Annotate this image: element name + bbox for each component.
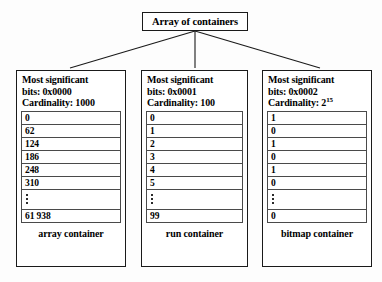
vertical-dots-icon [151, 192, 153, 206]
container-bitmap-cardinality: Cardinality: 215 [268, 97, 367, 109]
table-row: 62 [22, 125, 120, 138]
table-row: 0 [268, 151, 366, 164]
table-row-last: 61 938 [22, 210, 120, 223]
table-row: 124 [22, 138, 120, 151]
container-array: Most significant bits: 0x0000 Cardinalit… [16, 70, 126, 267]
diagram-canvas: Array of containers Most significant bit… [0, 0, 382, 282]
table-row-ellipsis [147, 190, 242, 210]
table-row-ellipsis [22, 190, 120, 210]
table-row: 1 [268, 112, 366, 125]
table-row-last: 99 [147, 210, 242, 223]
table-row-last: 0 [268, 210, 366, 223]
container-bitmap-rows: 1 0 1 0 1 0 0 [267, 111, 367, 223]
cardinality-exponent: 15 [326, 96, 333, 104]
table-row: 5 [147, 177, 242, 190]
table-row: 1 [268, 164, 366, 177]
table-row: 248 [22, 164, 120, 177]
container-array-rows: 0 62 124 186 248 310 61 938 [21, 111, 121, 223]
container-array-msb-line2: bits: 0x0000 [22, 86, 121, 98]
table-row: 1 [268, 138, 366, 151]
container-run-cardinality: Cardinality: 100 [147, 97, 243, 109]
connector-line-left [70, 31, 195, 68]
container-run-msb-line2: bits: 0x0001 [147, 86, 243, 98]
table-row: 1 [147, 125, 242, 138]
array-of-containers-label: Array of containers [152, 16, 238, 27]
container-bitmap-caption: bitmap container [267, 228, 367, 239]
vertical-dots-icon [26, 192, 28, 206]
container-run: Most significant bits: 0x0001 Cardinalit… [141, 70, 248, 267]
container-array-cardinality: Cardinality: 1000 [22, 97, 121, 109]
connector-line-right [195, 31, 320, 68]
container-bitmap-msb-line1: Most significant [268, 74, 367, 86]
table-row: 4 [147, 164, 242, 177]
table-row: 3 [147, 151, 242, 164]
table-row: 0 [268, 177, 366, 190]
array-of-containers-box: Array of containers [142, 12, 248, 31]
table-row: 186 [22, 151, 120, 164]
table-row: 310 [22, 177, 120, 190]
table-row: 2 [147, 138, 242, 151]
table-row: 0 [147, 112, 242, 125]
table-row-ellipsis [268, 190, 366, 210]
vertical-dots-icon [272, 192, 274, 206]
container-run-msb-line1: Most significant [147, 74, 243, 86]
container-bitmap: Most significant bits: 0x0002 Cardinalit… [262, 70, 372, 267]
container-array-msb-line1: Most significant [22, 74, 121, 86]
table-row: 0 [268, 125, 366, 138]
container-run-caption: run container [146, 228, 243, 239]
container-bitmap-msb-line2: bits: 0x0002 [268, 86, 367, 98]
container-run-rows: 0 1 2 3 4 5 99 [146, 111, 243, 223]
container-array-caption: array container [21, 228, 121, 239]
table-row: 0 [22, 112, 120, 125]
